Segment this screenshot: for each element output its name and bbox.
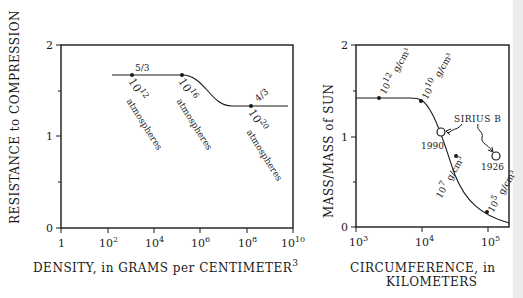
left-xtick-1e10: 1010 bbox=[281, 235, 305, 250]
right-y-ticks bbox=[351, 45, 356, 227]
left-chart: RESISTANCE to COMPRESSION 2 1 0 1 102 10… bbox=[8, 10, 305, 275]
right-ytick-2: 2 bbox=[341, 39, 348, 52]
label-1e12-density: 1012g/cm³ bbox=[375, 44, 412, 96]
label-1e20-atm: 1020 atmospheres bbox=[236, 106, 298, 183]
right-x-ticks bbox=[356, 227, 488, 232]
label-1e7-density: 107g/cm³ bbox=[431, 153, 466, 200]
right-x-axis-label-line2: KILOMETERS bbox=[386, 275, 478, 289]
right-xtick-1e3: 103 bbox=[349, 234, 368, 249]
sirius-b-1926-marker bbox=[492, 152, 500, 160]
year-1926-label: 1926 bbox=[481, 162, 504, 172]
left-xtick-1e8: 108 bbox=[238, 235, 257, 250]
left-point-1e12 bbox=[130, 73, 134, 77]
svg-text:atmospheres: atmospheres bbox=[245, 128, 285, 183]
svg-text:107g/cm³: 107g/cm³ bbox=[431, 153, 466, 200]
right-y-axis-label: MASS/MASS of SUN bbox=[322, 83, 336, 218]
right-ytick-0: 0 bbox=[341, 221, 348, 234]
svg-text:1010g/cm³: 1010g/cm³ bbox=[417, 49, 454, 101]
right-xtick-1e4: 104 bbox=[415, 234, 434, 249]
label-1e12-atm: 1012 atmospheres bbox=[116, 75, 178, 152]
right-point-1e10 bbox=[419, 99, 423, 103]
left-ytick-1: 1 bbox=[46, 130, 53, 143]
left-x-ticks bbox=[61, 228, 293, 233]
svg-text:105g/cm³: 105g/cm³ bbox=[483, 167, 518, 214]
right-x-axis-label-line1: CIRCUMFERENCE, in bbox=[350, 261, 496, 275]
left-ytick-0: 0 bbox=[46, 222, 53, 235]
right-ytick-1: 1 bbox=[341, 131, 348, 144]
arrow-to-1926 bbox=[478, 124, 492, 151]
svg-text:atmospheres: atmospheres bbox=[175, 97, 215, 152]
label-1e16-atm: 1016 atmospheres bbox=[166, 75, 228, 152]
right-chart: MASS/MASS of SUN 2 1 0 103 104 105 CIRCU… bbox=[322, 39, 518, 289]
frac-5-3-label: 5/3 bbox=[135, 63, 150, 73]
left-xtick-1e4: 104 bbox=[145, 235, 164, 250]
figure: RESISTANCE to COMPRESSION 2 1 0 1 102 10… bbox=[0, 0, 523, 298]
sirius-b-1990-marker bbox=[437, 128, 445, 136]
right-xtick-1e5: 105 bbox=[481, 234, 500, 249]
year-1990-label: 1990 bbox=[421, 141, 444, 151]
sirius-b-label: SIRIUS B bbox=[454, 114, 501, 124]
right-point-1e12 bbox=[377, 96, 381, 100]
left-xtick-1e6: 106 bbox=[191, 235, 210, 250]
left-point-1e16 bbox=[180, 73, 184, 77]
right-x-tick-labels: 103 104 105 bbox=[349, 234, 500, 249]
left-y-ticks bbox=[56, 45, 61, 228]
label-1e10-density: 1010g/cm³ bbox=[417, 49, 454, 101]
arrow-to-1990 bbox=[447, 124, 462, 133]
label-1e5-density: 105g/cm³ bbox=[483, 167, 518, 214]
left-ytick-2: 2 bbox=[46, 39, 53, 52]
left-point-1e20 bbox=[249, 104, 253, 108]
left-xtick-1e2: 102 bbox=[99, 235, 118, 250]
left-y-axis-label: RESISTANCE to COMPRESSION bbox=[8, 10, 22, 224]
left-x-tick-labels: 1 102 104 106 108 1010 bbox=[58, 235, 305, 250]
right-plot-frame bbox=[356, 45, 509, 227]
left-xtick-1: 1 bbox=[58, 237, 65, 250]
svg-text:atmospheres: atmospheres bbox=[125, 97, 165, 152]
frac-4-3-label: 4/3 bbox=[253, 86, 271, 103]
svg-text:1012g/cm³: 1012g/cm³ bbox=[375, 44, 412, 96]
left-x-axis-label: DENSITY, in GRAMS per CENTIMETER3 bbox=[33, 258, 298, 275]
